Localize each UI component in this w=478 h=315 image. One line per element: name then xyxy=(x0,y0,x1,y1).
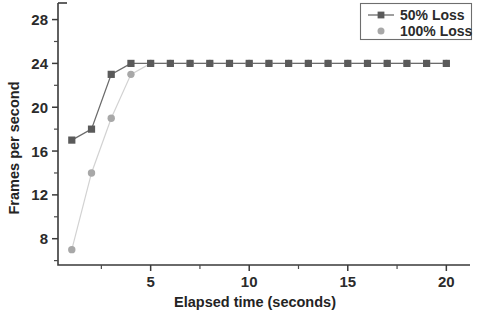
data-point-marker xyxy=(108,71,115,78)
axis-spines xyxy=(58,3,470,265)
y-tick-label: 8 xyxy=(40,230,48,247)
y-tick-label: 16 xyxy=(31,143,48,160)
series-line-2 xyxy=(72,63,447,249)
y-axis-ticks xyxy=(52,20,58,261)
y-axis-title: Frames per second xyxy=(6,82,22,215)
frames-per-second-line-chart: 5101520 81216202428 Elapsed time (second… xyxy=(0,0,478,315)
data-point-marker xyxy=(127,71,134,78)
data-point-marker xyxy=(305,60,312,67)
y-axis-tick-labels: 81216202428 xyxy=(31,11,48,247)
legend-label: 100% Loss xyxy=(400,23,473,39)
data-point-marker xyxy=(206,60,213,67)
data-point-marker xyxy=(423,60,430,67)
data-point-marker xyxy=(167,60,174,67)
data-point-marker xyxy=(364,60,371,67)
y-tick-label: 28 xyxy=(31,11,48,28)
x-tick-label: 5 xyxy=(146,273,154,290)
data-point-marker xyxy=(68,246,75,253)
series-lines xyxy=(72,63,447,249)
data-point-marker xyxy=(186,60,193,67)
data-point-marker xyxy=(88,169,95,176)
data-point-marker xyxy=(108,114,115,121)
data-point-marker xyxy=(127,60,134,67)
data-point-marker xyxy=(265,60,272,67)
data-point-marker xyxy=(384,60,391,67)
legend-swatch-marker-1 xyxy=(378,12,385,19)
chart-figure: 5101520 81216202428 Elapsed time (second… xyxy=(0,0,478,315)
data-point-marker xyxy=(324,60,331,67)
y-tick-label: 20 xyxy=(31,99,48,116)
y-tick-label: 12 xyxy=(31,186,48,203)
data-point-marker xyxy=(285,60,292,67)
y-tick-label: 24 xyxy=(31,55,48,72)
data-point-marker xyxy=(443,60,450,67)
legend-swatch-marker-2 xyxy=(378,28,385,35)
data-point-marker xyxy=(344,60,351,67)
x-axis-tick-labels: 5101520 xyxy=(146,273,454,290)
x-tick-label: 15 xyxy=(339,273,356,290)
x-tick-label: 20 xyxy=(438,273,455,290)
x-axis-ticks xyxy=(101,265,446,271)
data-point-marker xyxy=(226,60,233,67)
data-point-marker xyxy=(246,60,253,67)
data-point-marker xyxy=(147,60,154,67)
data-point-marker xyxy=(403,60,410,67)
data-point-marker xyxy=(68,136,75,143)
series-markers xyxy=(68,60,450,254)
chart-legend: 50% Loss100% Loss xyxy=(361,4,473,40)
x-axis-title: Elapsed time (seconds) xyxy=(174,294,336,310)
axis-spine-path xyxy=(58,3,470,265)
data-point-marker xyxy=(88,126,95,133)
x-tick-label: 10 xyxy=(241,273,258,290)
legend-label: 50% Loss xyxy=(400,7,465,23)
